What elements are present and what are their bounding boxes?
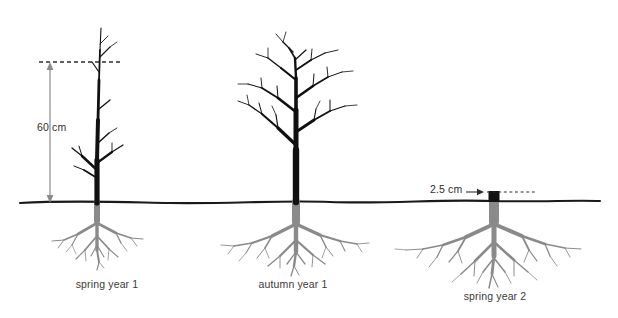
caption-stage-1: spring year 1 (62, 278, 152, 290)
trunk-stage-2 (283, 42, 296, 202)
ground-line (20, 201, 600, 204)
roots-stage-3 (395, 201, 581, 288)
ground-line-group (20, 201, 600, 204)
dimension-25cm-label: 2.5 cm (430, 183, 462, 195)
caption-stage-3: spring year 2 (440, 290, 550, 302)
diagram-canvas (0, 0, 618, 318)
roots-stage-2 (221, 202, 369, 276)
cut-stump-stage-3 (489, 191, 500, 202)
tree-stage-3 (395, 191, 581, 288)
dimension-25cm-group (466, 189, 537, 195)
roots-stage-1 (52, 203, 143, 270)
dimension-25cm-arrowhead (477, 189, 484, 195)
caption-stage-2: autumn year 1 (243, 278, 343, 290)
tree-growth-diagram: 60 cm 2.5 cm spring year 1 autumn year 1… (0, 0, 618, 318)
tree-stage-2 (221, 32, 369, 276)
tree-stage-1 (52, 28, 143, 270)
dimension-60cm-label: 60 cm (37, 121, 66, 133)
trunk-stage-1 (97, 28, 101, 203)
dimension-60cm-arrowhead-top (47, 62, 54, 70)
